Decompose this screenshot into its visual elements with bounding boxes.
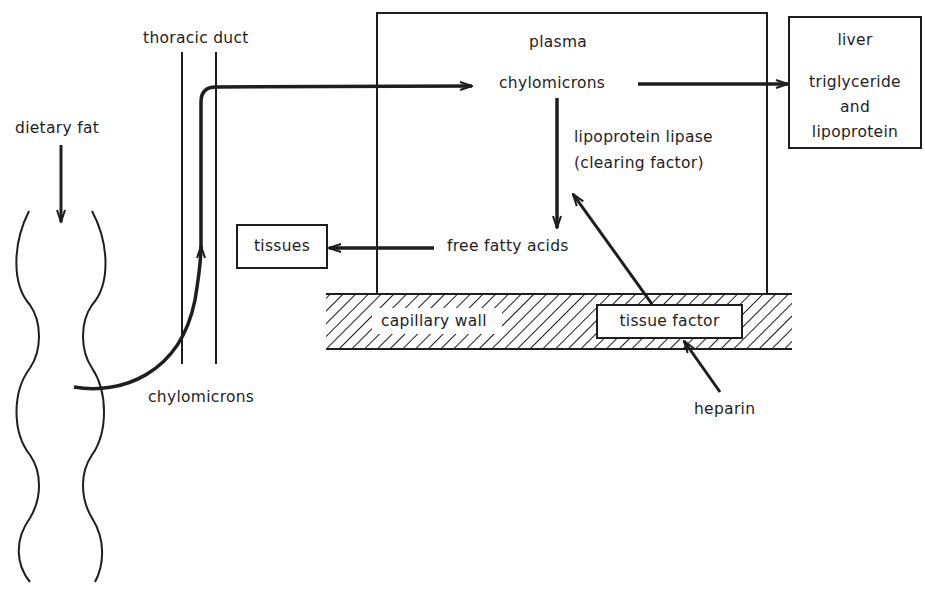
label-liver-triglyceride: triglyceride <box>789 75 921 91</box>
label-tissues: tissues <box>237 239 327 255</box>
fat-transport-diagram <box>0 0 925 591</box>
label-clearing-factor: (clearing factor) <box>574 156 704 172</box>
label-heparin: heparin <box>694 402 755 418</box>
label-chylomicrons-lymph: chylomicrons <box>148 390 254 406</box>
tissue-factor-to-lipase-arrow <box>573 194 652 304</box>
label-liver-and: and <box>789 100 921 116</box>
label-free-fatty-acids: free fatty acids <box>447 239 569 255</box>
label-thoracic-duct: thoracic duct <box>143 31 249 47</box>
label-dietary-fat: dietary fat <box>15 121 99 137</box>
intestine-outline <box>16 211 105 582</box>
label-plasma: plasma <box>529 35 587 51</box>
label-lipoprotein-lipase: lipoprotein lipase <box>574 130 713 146</box>
label-chylomicrons-plasma: chylomicrons <box>499 76 605 92</box>
plasma-compartment <box>377 13 767 294</box>
thoracic-duct-walls <box>182 52 216 364</box>
label-liver: liver <box>789 33 921 49</box>
label-tissue-factor: tissue factor <box>597 314 742 330</box>
label-liver-lipoprotein: lipoprotein <box>789 125 921 141</box>
label-capillary-wall: capillary wall <box>381 314 487 330</box>
